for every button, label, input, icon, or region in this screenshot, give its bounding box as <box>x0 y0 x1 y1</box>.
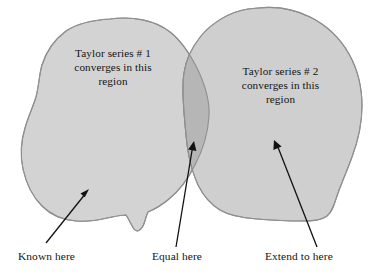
caption-equal-here: Equal here <box>152 250 202 263</box>
taylor-series-venn-figure: Taylor series # 1 converges in this regi… <box>0 0 380 279</box>
caption-known-here: Known here <box>18 250 75 263</box>
region-1-shape <box>21 18 209 231</box>
figure-canvas <box>0 0 380 279</box>
region-2-shape <box>183 7 362 221</box>
caption-extend-to-here: Extend to here <box>265 250 333 263</box>
